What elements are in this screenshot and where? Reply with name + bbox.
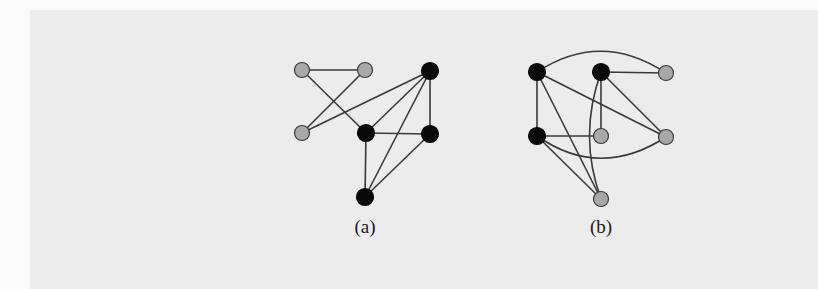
graph-edge (366, 133, 430, 134)
graph-edge (366, 71, 430, 133)
gray-vertex (594, 129, 609, 144)
gray-vertex (659, 130, 674, 145)
gray-vertex (295, 126, 310, 141)
graph-edge (537, 136, 601, 199)
black-vertex (529, 64, 546, 81)
gray-vertex (659, 66, 674, 81)
subfigure-b-caption: (b) (590, 216, 612, 238)
graph-edge (302, 71, 430, 133)
black-vertex (529, 128, 546, 145)
subfigure-a-caption: (a) (354, 216, 375, 238)
black-vertex (358, 125, 375, 142)
black-vertex (422, 126, 439, 143)
gray-vertex (358, 63, 373, 78)
graph-edge (365, 133, 366, 197)
gray-vertex (594, 192, 609, 207)
subfigure-b (529, 51, 674, 206)
subfigure-a (295, 63, 439, 206)
graph-edge (365, 134, 430, 197)
graph-edge (601, 72, 666, 73)
black-vertex (357, 189, 374, 206)
graph-figure (0, 0, 818, 289)
black-vertex (422, 63, 439, 80)
gray-vertex (295, 63, 310, 78)
graph-edge (601, 72, 666, 137)
black-vertex (593, 64, 610, 81)
